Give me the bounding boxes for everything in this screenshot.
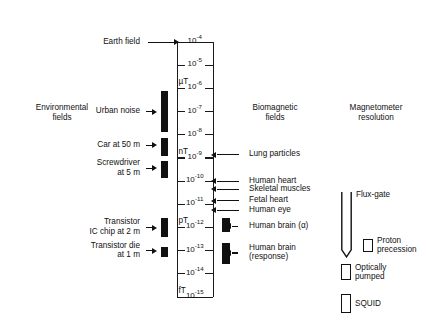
magnetometer-marker-box [363,239,373,253]
source-label: Lung particles [249,149,335,159]
axis-rail-right [213,42,214,297]
range-bar [161,138,169,157]
pointer-arrow [146,145,152,146]
axis-unit-label: µT [179,77,189,86]
pointer-arrow [146,227,152,228]
range-bar [161,247,169,257]
source-label: Screwdriver at 5 m [30,158,140,177]
axis-decade-label: 10-8 [177,129,213,138]
range-bar [161,91,169,132]
pointer-arrow [217,200,239,201]
pointer-arrow [217,189,239,190]
magnetometer-marker-box [341,294,351,313]
axis-decade-label: 10-5 [177,59,213,68]
source-label: Human brain (α) [249,221,335,231]
magnetometer-marker-box [341,264,351,280]
pointer-arrow [232,226,238,227]
axis-decade-label: 10-13 [177,245,213,254]
environmental-fields-header: Environmental fields [18,103,106,122]
magnetometer-label: SQUID [355,299,417,309]
pointer-arrow [146,168,152,169]
source-label: Earth field [30,37,140,47]
source-label: Transistor die at 1 m [30,241,140,260]
magnetometer-label: Optically pumped [355,263,417,282]
magnetometer-marker-fluxgate [341,192,352,258]
magnetometer-resolution-header: Magnetometer resolution [330,103,422,122]
source-label: Transistor IC chip at 2 m [30,217,140,236]
magnetometer-label: Flux-gate [356,190,418,200]
magnetic-field-scale-figure: 10-410-510-610-710-810-910-1010-1110-121… [0,0,426,320]
axis-decade-label: 10-4 [177,36,213,45]
pointer-arrow [148,42,174,43]
source-label: Skeletal muscles [249,184,335,194]
pointer-arrow [146,111,152,112]
source-label: Human brain (response) [249,243,335,262]
source-label: Human eye [249,205,335,215]
axis-unit-label: fT [179,286,186,295]
axis-unit-label: nT [179,147,189,156]
pointer-arrow [232,252,238,253]
pointer-arrow [217,154,239,155]
biomagnetic-fields-header: Biomagnetic fields [232,103,318,122]
axis-decade-label: 10-14 [177,268,213,277]
magnetometer-label: Proton precession [377,236,426,255]
axis-decade-label: 10-10 [177,175,213,184]
range-bar [161,161,169,178]
pointer-arrow [217,181,239,182]
source-label: Car at 50 m [30,140,140,150]
axis-unit-label: pT [179,216,189,225]
axis-decade-label: 10-7 [177,106,213,115]
pointer-arrow [146,250,152,251]
pointer-arrow [217,210,239,211]
axis-decade-label: 10-11 [177,198,213,207]
source-label: Fetal heart [249,195,335,205]
range-bar [161,218,169,238]
